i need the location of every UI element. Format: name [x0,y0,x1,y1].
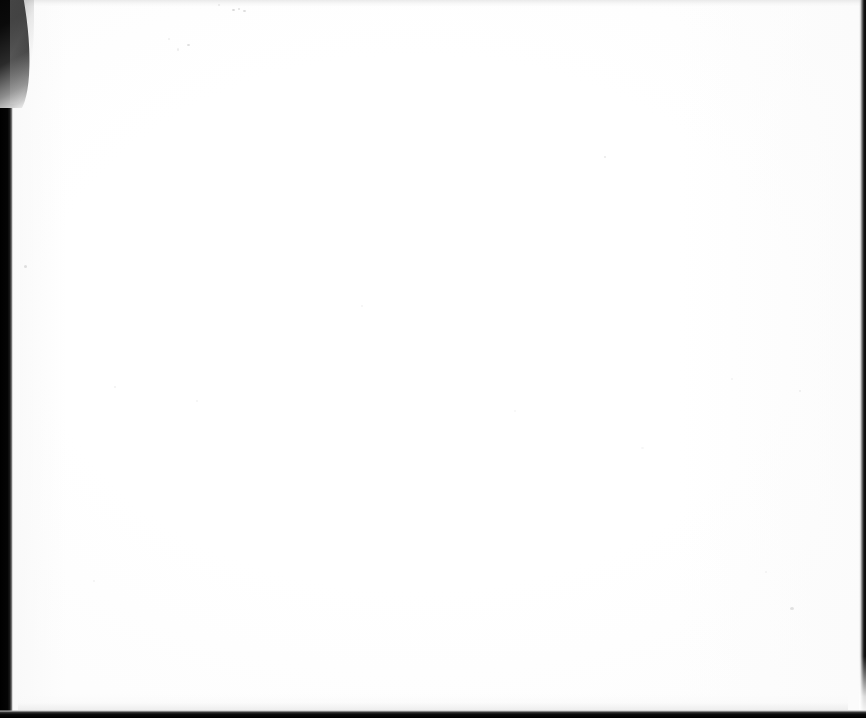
page-top-shadow [13,0,866,9]
scanner-bed-bottom-edge [0,710,866,718]
page-bottom-halo [18,694,848,710]
page-curl-top-left [0,0,34,108]
scanner-bed-right-edge-fade [859,656,866,718]
page-text-content [60,60,800,660]
page-curl-penumbra [10,0,34,104]
scanned-page [0,0,866,718]
scanner-bed-right-edge [859,0,866,718]
